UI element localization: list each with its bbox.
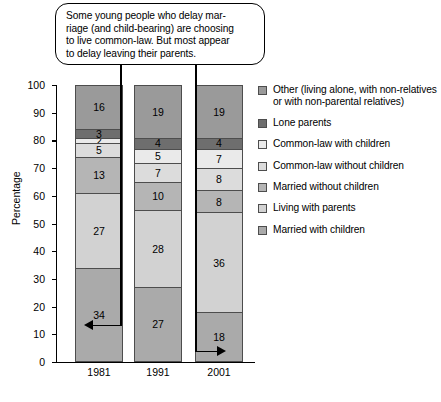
legend-item-label: Common-law with children — [273, 138, 390, 150]
x-axis — [56, 362, 255, 363]
segment-value-label: 27 — [93, 226, 105, 237]
segment-value-label: 8 — [216, 197, 222, 208]
legend-swatch-icon — [258, 183, 267, 192]
bar-segment[interactable]: 2 — [75, 138, 123, 144]
bar-segment[interactable]: 8 — [195, 168, 243, 190]
chart-figure: Some young people who delay mar- riage (… — [0, 0, 441, 402]
segment-value-label: 19 — [152, 107, 164, 118]
segment-value-label: 16 — [93, 102, 105, 113]
bar-segment[interactable]: 4 — [134, 138, 182, 149]
y-tick-label: 50 — [33, 219, 45, 230]
y-tick-label: 30 — [33, 274, 45, 285]
segment-value-label: 27 — [152, 319, 164, 330]
callout-box: Some young people who delay mar- riage (… — [55, 3, 265, 65]
legend-swatch-icon — [258, 86, 267, 95]
y-tick-label: 20 — [33, 302, 45, 313]
segment-value-label: 2 — [96, 138, 102, 144]
y-tick-label: 60 — [33, 191, 45, 202]
legend-swatch-icon — [258, 162, 267, 171]
segment-value-label: 4 — [216, 138, 222, 148]
y-tick: 0 — [52, 362, 56, 363]
callout-line-3: to live common-law. But most appear — [66, 35, 255, 48]
y-tick: 30 — [52, 279, 56, 280]
legend-item-label: Married without children — [273, 181, 379, 193]
leader-line-left-horizontal — [92, 325, 121, 327]
legend-item[interactable]: Common-law with children — [258, 138, 438, 150]
bar-segment[interactable]: 10 — [134, 182, 182, 210]
bar-segment[interactable]: 19 — [134, 85, 182, 138]
y-tick-label: 70 — [33, 163, 45, 174]
y-tick-label: 10 — [33, 329, 45, 340]
y-tick: 100 — [52, 85, 56, 86]
x-tick-label: 1981 — [75, 366, 123, 378]
legend-item-label: Living with parents — [273, 202, 355, 214]
y-tick: 80 — [52, 140, 56, 141]
legend-item[interactable]: Lone parents — [258, 117, 438, 129]
bar-segment[interactable]: 27 — [75, 193, 123, 268]
leader-line-left-vertical — [120, 64, 122, 326]
leader-line-right-horizontal — [196, 351, 218, 353]
x-tick-label: 1991 — [134, 366, 182, 378]
arrow-left-icon — [84, 320, 93, 330]
legend-swatch-icon — [258, 204, 267, 213]
bar-1981[interactable]: 34271352316 — [75, 85, 123, 362]
segment-value-label: 18 — [213, 332, 225, 343]
y-axis — [56, 85, 57, 362]
bar-segment[interactable]: 5 — [75, 143, 123, 157]
segment-value-label: 34 — [93, 310, 105, 321]
y-tick: 10 — [52, 334, 56, 335]
bar-segment[interactable]: 28 — [134, 210, 182, 288]
bar-1991[interactable]: 27281075419 — [134, 85, 182, 362]
legend-item[interactable]: Common-law without children — [258, 160, 438, 172]
y-axis-label: Percentage — [10, 171, 22, 225]
segment-value-label: 10 — [152, 191, 164, 202]
segment-value-label: 4 — [155, 138, 161, 148]
callout-line-4: to delay leaving their parents. — [66, 48, 255, 61]
segment-value-label: 5 — [96, 145, 102, 156]
legend-swatch-icon — [258, 119, 267, 128]
legend-item[interactable]: Married with children — [258, 224, 438, 236]
legend-item-label: Lone parents — [273, 117, 331, 129]
bar-2001[interactable]: 1836887419 — [195, 85, 243, 362]
segment-value-label: 36 — [213, 258, 225, 269]
bar-segment[interactable]: 27 — [134, 287, 182, 362]
bar-segment[interactable]: 4 — [195, 138, 243, 149]
segment-value-label: 7 — [155, 168, 161, 179]
segment-value-label: 3 — [96, 129, 102, 137]
bar-segment[interactable]: 5 — [134, 149, 182, 163]
arrow-right-icon — [217, 346, 226, 356]
y-tick-label: 40 — [33, 246, 45, 257]
bar-segment[interactable]: 19 — [195, 85, 243, 138]
leader-line-right-vertical — [195, 64, 197, 352]
segment-value-label: 5 — [155, 151, 161, 162]
bar-segment[interactable]: 13 — [75, 157, 123, 193]
bar-segment[interactable]: 34 — [75, 268, 123, 362]
segment-value-label: 7 — [216, 154, 222, 165]
segment-value-label: 8 — [216, 174, 222, 185]
legend-item[interactable]: Other (living alone, with non-relatives … — [258, 84, 438, 108]
segment-value-label: 13 — [93, 170, 105, 181]
segment-value-label: 19 — [213, 107, 225, 118]
y-tick-label: 100 — [27, 80, 45, 91]
bar-segment[interactable]: 3 — [75, 129, 123, 137]
y-tick: 40 — [52, 251, 56, 252]
y-tick-label: 80 — [33, 135, 45, 146]
legend-item[interactable]: Living with parents — [258, 202, 438, 214]
legend-swatch-icon — [258, 140, 267, 149]
bar-segment[interactable]: 7 — [195, 149, 243, 168]
legend-item-label: Other (living alone, with non-relatives … — [273, 84, 438, 108]
bar-segment[interactable]: 8 — [195, 190, 243, 212]
y-tick: 90 — [52, 113, 56, 114]
bar-segment[interactable]: 7 — [134, 163, 182, 182]
y-tick: 20 — [52, 307, 56, 308]
legend-item-label: Common-law without children — [273, 160, 404, 172]
segment-value-label: 28 — [152, 244, 164, 255]
y-tick: 70 — [52, 168, 56, 169]
legend-swatch-icon — [258, 226, 267, 235]
y-tick-label: 0 — [39, 357, 45, 368]
legend-item[interactable]: Married without children — [258, 181, 438, 193]
legend-item-label: Married with children — [273, 224, 365, 236]
y-tick: 60 — [52, 196, 56, 197]
bar-segment[interactable]: 36 — [195, 212, 243, 312]
bar-segment[interactable]: 16 — [75, 85, 123, 129]
